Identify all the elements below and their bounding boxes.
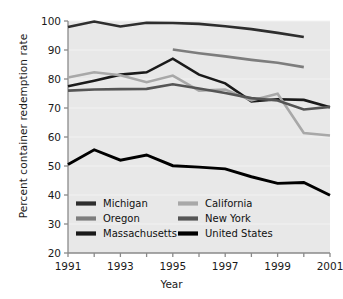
legend-swatch	[76, 216, 96, 220]
line-chart-svg: 2030405060708090100199119931995199719992…	[0, 0, 343, 299]
y-axis-tick-label: 100	[41, 15, 61, 27]
y-axis-tick-label: 50	[48, 160, 61, 172]
legend-swatch	[178, 201, 198, 205]
x-axis-tick-label: 1995	[159, 260, 186, 272]
legend-swatch	[178, 231, 198, 235]
x-axis-tick-label: 1991	[55, 260, 82, 272]
y-axis-tick-label: 40	[48, 189, 61, 201]
chart-container: 2030405060708090100199119931995199719992…	[0, 0, 343, 299]
legend-label-california: California	[205, 198, 253, 209]
legend-label-massachusetts: Massachusetts	[103, 228, 177, 239]
x-axis-tick-label: 1993	[107, 260, 134, 272]
legend-swatch	[76, 231, 96, 235]
legend-swatch	[178, 216, 198, 220]
x-axis-tick-label: 1999	[264, 260, 291, 272]
y-axis-label: Percent container redemption rate	[17, 31, 29, 221]
y-axis-tick-label: 30	[48, 218, 61, 230]
x-axis-label: Year	[0, 278, 343, 290]
legend-label-oregon: Oregon	[103, 213, 140, 224]
y-axis-tick-label: 70	[48, 102, 61, 114]
legend-label-united-states: United States	[205, 228, 273, 239]
x-axis-tick-label: 2001	[317, 260, 343, 272]
x-axis-tick-label: 1997	[212, 260, 239, 272]
legend-label-new-york: New York	[205, 213, 251, 224]
y-axis-tick-label: 80	[48, 73, 61, 85]
y-axis-tick-label: 60	[48, 131, 61, 143]
legend-swatch	[76, 201, 96, 205]
legend-label-michigan: Michigan	[103, 198, 148, 209]
y-axis-tick-label: 90	[48, 44, 61, 56]
y-axis-tick-label: 20	[48, 247, 61, 259]
